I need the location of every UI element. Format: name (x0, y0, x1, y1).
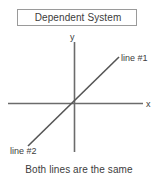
line-1-and-2-graph (28, 57, 119, 146)
line-2-label: line #2 (10, 146, 37, 156)
caption-text: Both lines are the same (0, 164, 158, 175)
line-1-label: line #1 (121, 53, 148, 63)
y-axis-label: y (70, 32, 75, 42)
x-axis-label: x (146, 99, 151, 109)
diagram-screenshot: Dependent System y x line #1 line #2 Bot… (0, 0, 158, 180)
